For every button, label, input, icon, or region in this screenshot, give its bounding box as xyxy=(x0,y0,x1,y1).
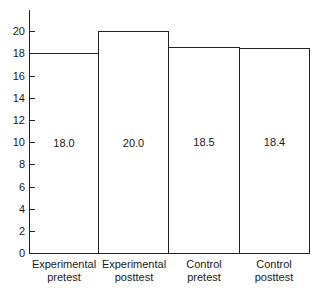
y-tick-label: 4 xyxy=(3,203,25,215)
category-label-line: Experimental xyxy=(94,258,174,271)
x-axis xyxy=(29,253,310,254)
y-tick-label: 12 xyxy=(3,114,25,126)
y-tick-label: 0 xyxy=(3,247,25,259)
bar-experimental-pretest xyxy=(29,53,99,253)
y-tick-label: 20 xyxy=(3,25,25,37)
bar-value-label: 18.4 xyxy=(239,136,310,148)
y-tick-label: 6 xyxy=(3,181,25,193)
category-label: Control posttest xyxy=(234,258,314,284)
y-tick-label: 8 xyxy=(3,158,25,170)
y-tick-label: 14 xyxy=(3,92,25,104)
category-label-line: Control xyxy=(164,258,244,271)
bar-control-pretest xyxy=(168,47,240,253)
category-label-line: posttest xyxy=(234,271,314,284)
category-label: Experimental posttest xyxy=(94,258,174,284)
bar-control-posttest xyxy=(239,48,310,253)
bar-value-label: 20.0 xyxy=(98,137,169,149)
category-label-line: posttest xyxy=(94,271,174,284)
y-tick xyxy=(29,31,35,32)
y-tick xyxy=(29,253,35,254)
y-tick-label: 18 xyxy=(3,47,25,59)
category-label-line: Control xyxy=(234,258,314,271)
y-tick-label: 10 xyxy=(3,136,25,148)
category-label: Experimental pretest xyxy=(24,258,104,284)
category-label: Control pretest xyxy=(164,258,244,284)
category-label-line: pretest xyxy=(24,271,104,284)
y-tick-label: 2 xyxy=(3,225,25,237)
category-label-line: pretest xyxy=(164,271,244,284)
bar-value-label: 18.0 xyxy=(29,137,99,149)
bar-value-label: 18.5 xyxy=(168,136,240,148)
category-label-line: Experimental xyxy=(24,258,104,271)
y-tick-label: 16 xyxy=(3,70,25,82)
